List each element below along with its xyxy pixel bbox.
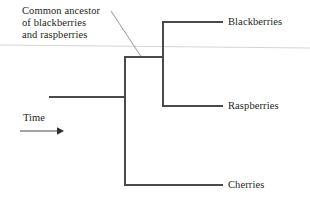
tip-label-cherries: Cherries — [228, 179, 264, 190]
time-arrow-icon — [18, 124, 68, 138]
common-ancestor-annotation: Common ancestor of blackberries and rasp… — [22, 5, 134, 42]
annotation-line-1: Common ancestor — [22, 5, 134, 17]
tip-label-raspberries: Raspberries — [228, 100, 279, 111]
annotation-line-3: and raspberries — [22, 29, 134, 41]
time-axis-label: Time — [23, 112, 45, 123]
cladogram-figure: Common ancestor of blackberries and rasp… — [0, 0, 310, 204]
annotation-line-2: of blackberries — [22, 17, 134, 29]
tip-label-blackberries: Blackberries — [228, 16, 282, 27]
